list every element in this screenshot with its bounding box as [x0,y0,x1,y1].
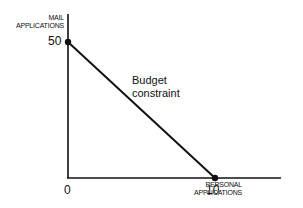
annotation-line1: Budget [132,74,180,87]
x-axis-title-line1: PERSONAL [194,181,242,189]
y-axis-title: MAIL APPLICATIONS [16,14,64,30]
y-tick-50: 50 [48,34,61,48]
budget-constraint-annotation: Budget constraint [132,74,180,100]
x-axis-title: PERSONAL APPLICATIONS [194,181,242,197]
chart-plot [0,0,303,208]
x-axis-title-line2: APPLICATIONS [194,189,242,197]
budget-constraint-line [68,42,215,178]
y-axis-title-line1: MAIL [16,14,64,22]
annotation-line2: constraint [132,87,180,100]
y-axis-title-line2: APPLICATIONS [16,22,64,30]
x-tick-0: 0 [64,183,71,197]
intercept-point-y [65,39,71,45]
